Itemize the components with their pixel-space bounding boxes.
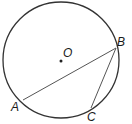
circle-diagram <box>0 0 132 124</box>
label-b: B <box>117 36 125 48</box>
label-a: A <box>11 101 19 113</box>
label-o: O <box>63 47 72 59</box>
label-c: C <box>87 111 96 123</box>
